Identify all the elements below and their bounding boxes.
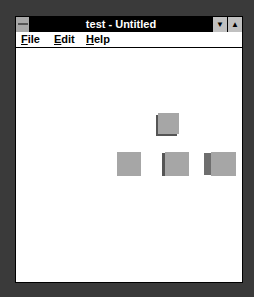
menu-file-mnemonic: F (21, 33, 28, 45)
menu-help-mnemonic: H (86, 33, 94, 45)
menu-bar: File Edit Help (16, 32, 242, 48)
app-window: test - Untitled ▼ ▲ File Edit Help (15, 16, 243, 283)
menu-help[interactable]: Help (86, 32, 110, 47)
minimize-icon: ▼ (216, 20, 224, 29)
maximize-icon: ▲ (231, 20, 239, 29)
system-menu-button[interactable] (16, 17, 30, 32)
cube-bottom-right (204, 152, 236, 176)
window-title: test - Untitled (30, 17, 212, 32)
cube-bottom-left (117, 152, 141, 176)
title-bar[interactable]: test - Untitled ▼ ▲ (16, 17, 242, 32)
menu-file[interactable]: File (21, 32, 40, 47)
maximize-button[interactable]: ▲ (227, 17, 242, 32)
system-menu-icon (18, 23, 28, 25)
cube-top (156, 113, 179, 136)
minimize-button[interactable]: ▼ (212, 17, 227, 32)
menu-file-label: ile (28, 33, 40, 45)
menu-edit-label: dit (61, 33, 74, 45)
canvas-area[interactable] (16, 48, 242, 282)
cube-bottom-middle (162, 152, 189, 176)
menu-edit[interactable]: Edit (54, 32, 75, 47)
menu-help-label: elp (94, 33, 110, 45)
